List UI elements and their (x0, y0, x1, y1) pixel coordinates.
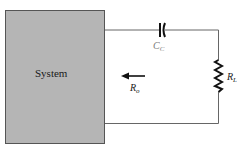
circuit-diagram: System CC RL Ro (0, 0, 249, 154)
capacitor-symbol: C (153, 40, 160, 51)
system-label: System (35, 67, 67, 79)
arrow-left-icon (121, 73, 145, 80)
load-resistor-subscript: L (233, 76, 237, 84)
capacitor-icon (160, 23, 165, 37)
load-resistor-label: RL (227, 71, 237, 84)
output-resistance-label: Ro (130, 82, 140, 95)
output-resistance-subscript: o (136, 87, 140, 95)
capacitor-subscript: C (160, 45, 165, 53)
resistor-icon (215, 60, 222, 92)
capacitor-label: CC (153, 40, 164, 53)
